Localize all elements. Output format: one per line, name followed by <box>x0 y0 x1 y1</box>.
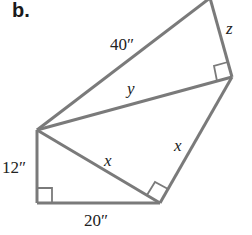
label-z: z <box>226 20 233 37</box>
segment-40 <box>37 0 210 130</box>
right-angle-marker-bottom-left <box>37 188 52 203</box>
label-y: y <box>127 80 135 97</box>
diagram: b. 40″ z y x x 12″ 20″ <box>0 0 252 235</box>
segment-x-outer <box>160 77 232 203</box>
segment-x-inner <box>37 130 160 203</box>
label-x-outer: x <box>174 137 182 154</box>
label-20: 20″ <box>84 212 108 229</box>
label-12: 12″ <box>2 159 26 176</box>
label-40: 40″ <box>110 36 134 53</box>
label-x-inner: x <box>104 152 112 169</box>
